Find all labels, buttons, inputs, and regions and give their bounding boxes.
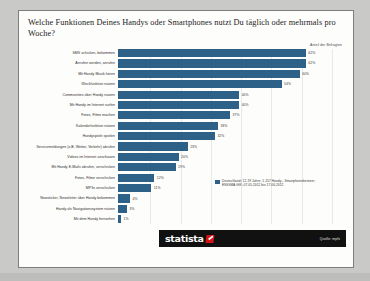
bar-track: 62% <box>118 49 344 58</box>
bar-row: Anrufen werden, anrufen62% <box>28 59 344 68</box>
bar-row: Videos im Internet anschauen20% <box>28 152 344 161</box>
bar <box>118 101 239 109</box>
bar-value-label: 33% <box>220 124 227 128</box>
bar-row: Fotos, Filme machen37% <box>28 111 344 120</box>
bar-track: 3% <box>118 204 344 213</box>
bar-row: Handyspiele spielen32% <box>28 132 344 141</box>
bar-track: 60% <box>118 69 344 78</box>
bar-category-label: SMS schicken, bekommen <box>28 51 118 55</box>
bar-category-label: Mit Handy E-Mails abrufen, verschicken <box>28 165 118 169</box>
bar-category-label: Fotos, Filme verschicken <box>28 176 118 180</box>
bar <box>118 91 239 99</box>
bar-value-label: 11% <box>154 186 161 190</box>
bar-category-label: Mit Handy Musik hören <box>28 72 118 76</box>
bottom-band <box>0 273 370 281</box>
bar-value-label: 1% <box>124 217 129 221</box>
bar-track: 23% <box>118 142 344 151</box>
bar-value-label: 40% <box>242 93 249 97</box>
chart-title: Welche Funktionen Deines Handys oder Sma… <box>28 18 344 39</box>
statista-logo-mark-icon <box>205 235 214 243</box>
bar-category-label: Servicemeldungen (z.B. Wetter, Verkehr) … <box>28 145 118 149</box>
bar <box>118 122 218 130</box>
legend-text: Deutschland; 12-19 Jahre; 1.157 Handy-, … <box>222 179 315 188</box>
legend-swatch-icon <box>215 180 220 185</box>
bar-row: Mit Handy E-Mails abrufen, verschicken19… <box>28 163 344 172</box>
bar <box>118 142 188 150</box>
bar-category-label: Mit Handy im Internet surfen <box>28 103 118 107</box>
bar-category-label: Weckfunktion nutzen <box>28 82 118 86</box>
axis-label-x: Anteil der Befragten <box>28 43 344 47</box>
statista-logo-text: statista <box>165 233 204 244</box>
bar-value-label: 62% <box>308 61 315 65</box>
bar-track: 4% <box>118 194 344 203</box>
bar <box>118 59 306 67</box>
bar-category-label: MP3s verschicken <box>28 186 118 190</box>
bar <box>118 111 230 119</box>
bar-rows: SMS schicken, bekommen62%Anrufen werden,… <box>28 49 344 224</box>
legend-line-2: ENIGMA GfK; 07.05.2012 bis 17.06.2012 <box>222 183 315 187</box>
statista-logo: statista <box>165 233 214 244</box>
bar <box>118 184 151 192</box>
bar <box>118 70 300 78</box>
footer-bar: statista Quelle: mpfs <box>159 230 346 247</box>
bar <box>118 174 154 182</box>
legend: Deutschland; 12-19 Jahre; 1.157 Handy-, … <box>215 179 315 188</box>
bar-row: Mit Handy im Internet surfen40% <box>28 100 344 109</box>
bar-track: 33% <box>118 121 344 130</box>
bar-track: 32% <box>118 132 344 141</box>
bar-category-label: Mit dem Handy fernsehen <box>28 217 118 221</box>
bar-track: 20% <box>118 152 344 161</box>
bar-category-label: Communities über Handy nutzen <box>28 93 118 97</box>
bar-value-label: 20% <box>181 155 188 159</box>
bar-track: 62% <box>118 59 344 68</box>
bar-row: Kalenderfunktion nutzen33% <box>28 121 344 130</box>
bar-value-label: 3% <box>130 207 135 211</box>
bar-row: Handy als Navigationssystem nutzen3% <box>28 204 344 213</box>
bar <box>118 80 282 88</box>
bar-category-label: Newsticker, Newsletter über Handy bekomm… <box>28 196 118 200</box>
screenshot-root: Welche Funktionen Deines Handys oder Sma… <box>0 0 370 281</box>
plot-area: SMS schicken, bekommen62%Anrufen werden,… <box>28 49 344 224</box>
bar-row: Communities über Handy nutzen40% <box>28 90 344 99</box>
bar-value-label: 32% <box>217 134 224 138</box>
bar-category-label: Fotos, Filme machen <box>28 113 118 117</box>
bar-row: Mit Handy Musik hören60% <box>28 69 344 78</box>
bar-value-label: 4% <box>133 197 138 201</box>
bar-category-label: Videos im Internet anschauen <box>28 155 118 159</box>
bar-track: 1% <box>118 215 344 224</box>
bar-value-label: 40% <box>242 103 249 107</box>
bar-value-label: 62% <box>308 51 315 55</box>
bar-row: Newsticker, Newsletter über Handy bekomm… <box>28 194 344 203</box>
bar-category-label: Handy als Navigationssystem nutzen <box>28 207 118 211</box>
bar <box>118 153 179 161</box>
bar-row: Servicemeldungen (z.B. Wetter, Verkehr) … <box>28 142 344 151</box>
bar <box>118 205 127 213</box>
bar <box>118 49 306 57</box>
bar-row: Weckfunktion nutzen54% <box>28 80 344 89</box>
bar-value-label: 60% <box>302 72 309 76</box>
bar <box>118 132 215 140</box>
bar-track: 40% <box>118 90 344 99</box>
bar-value-label: 37% <box>233 113 240 117</box>
bar <box>118 215 121 223</box>
bar-track: 37% <box>118 111 344 120</box>
bar-value-label: 12% <box>157 176 164 180</box>
bar-track: 19% <box>118 163 344 172</box>
bar <box>118 163 176 171</box>
bar-category-label: Anrufen werden, anrufen <box>28 61 118 65</box>
bar <box>118 194 130 202</box>
source-label: Quelle: mpfs <box>320 237 340 241</box>
bar-value-label: 19% <box>178 165 185 169</box>
bar-track: 40% <box>118 100 344 109</box>
bar-category-label: Kalenderfunktion nutzen <box>28 124 118 128</box>
bar-category-label: Handyspiele spielen <box>28 134 118 138</box>
chart-card: Welche Funktionen Deines Handys oder Sma… <box>18 10 354 268</box>
bar-value-label: 23% <box>190 145 197 149</box>
bar-value-label: 54% <box>284 82 291 86</box>
bar-track: 54% <box>118 80 344 89</box>
bar-row: Mit dem Handy fernsehen1% <box>28 215 344 224</box>
bar-row: SMS schicken, bekommen62% <box>28 49 344 58</box>
